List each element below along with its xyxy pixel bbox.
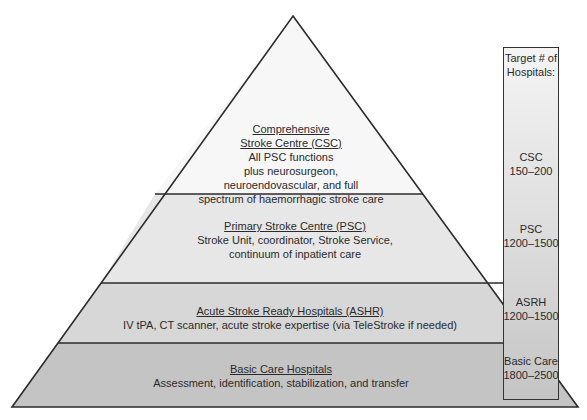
tier-psc: Primary Stroke Centre (PSC) Stroke Unit,… — [130, 219, 460, 261]
pyramid-graphic — [0, 0, 587, 420]
tier-basic-desc: Assessment, identification, stabilizatio… — [60, 376, 502, 390]
tier-psc-desc-1: Stroke Unit, coordinator, Stroke Service… — [130, 233, 460, 247]
target-csc-range: 150–200 — [503, 164, 559, 178]
target-basic: Basic Care 1800–2500 — [503, 354, 559, 382]
tier-basic-title: Basic Care Hospitals — [60, 362, 502, 376]
tier-csc-desc-3: neuroendovascular, and full — [160, 178, 422, 192]
target-csc: CSC 150–200 — [503, 150, 559, 178]
target-psc-range: 1200–1500 — [503, 236, 559, 250]
tier-ashr-desc: IV tPA, CT scanner, acute stroke experti… — [70, 318, 510, 332]
target-asrh-range: 1200–1500 — [503, 309, 559, 323]
tier-ashr-title: Acute Stroke Ready Hospitals (ASHR) — [70, 304, 510, 318]
tier-csc: Comprehensive Stroke Centre (CSC) All PS… — [160, 122, 422, 206]
target-csc-label: CSC — [503, 150, 559, 164]
target-psc: PSC 1200–1500 — [503, 222, 559, 250]
tier-basic: Basic Care Hospitals Assessment, identif… — [60, 362, 502, 390]
tier-csc-title-1: Comprehensive — [160, 122, 422, 136]
tier-psc-title: Primary Stroke Centre (PSC) — [130, 219, 460, 233]
tier-ashr: Acute Stroke Ready Hospitals (ASHR) IV t… — [70, 304, 510, 332]
target-basic-label: Basic Care — [503, 354, 559, 368]
target-basic-range: 1800–2500 — [503, 368, 559, 382]
target-header-line-1: Target # of — [503, 51, 559, 65]
target-asrh: ASRH 1200–1500 — [503, 295, 559, 323]
tier-csc-desc-2: plus neurosurgeon, — [160, 164, 422, 178]
tier-csc-desc-4: spectrum of haemorrhagic stroke care — [160, 192, 422, 206]
tier-csc-desc-1: All PSC functions — [160, 150, 422, 164]
tier-csc-title-2: Stroke Centre (CSC) — [160, 136, 422, 150]
target-psc-label: PSC — [503, 222, 559, 236]
target-header-line-2: Hospitals: — [503, 65, 559, 79]
target-asrh-label: ASRH — [503, 295, 559, 309]
tier-psc-desc-2: continuum of inpatient care — [130, 247, 460, 261]
target-column-header: Target # of Hospitals: — [503, 51, 559, 79]
